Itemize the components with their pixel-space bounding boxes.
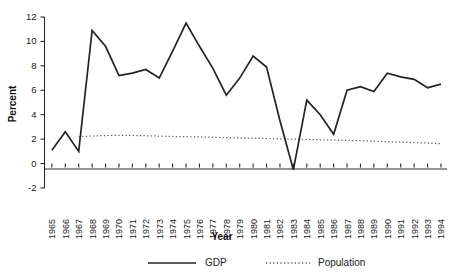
y-tick-label: 6 xyxy=(31,84,36,95)
y-tick-label: 4 xyxy=(31,109,36,120)
x-tick-label: 1983 xyxy=(289,219,299,239)
x-tick-label: 1976 xyxy=(195,219,205,239)
y-tick-label: 8 xyxy=(31,60,36,71)
x-tick-label: 1993 xyxy=(423,219,433,239)
legend-label-population: Population xyxy=(318,257,365,268)
x-tick-label: 1990 xyxy=(383,219,393,239)
y-tick-label: -2 xyxy=(28,182,36,193)
x-tick-label: 1986 xyxy=(329,219,339,239)
x-tick-label: 1989 xyxy=(369,219,379,239)
x-tick-marks xyxy=(52,164,441,168)
x-tick-labels: 1965196619671968196919701971197219731974… xyxy=(47,219,446,239)
x-tick-label: 1973 xyxy=(155,219,165,239)
chart-container: -2024681012 1965196619671968196919701971… xyxy=(0,0,455,279)
y-tick-label: 12 xyxy=(26,11,37,22)
x-tick-label: 1994 xyxy=(436,219,446,239)
x-tick-label: 1971 xyxy=(128,219,138,239)
x-tick-label: 1972 xyxy=(141,219,151,239)
series-line-population xyxy=(79,135,441,143)
x-tick-label: 1981 xyxy=(262,219,272,239)
legend-label-gdp: GDP xyxy=(205,257,227,268)
x-tick-label: 1991 xyxy=(396,219,406,239)
x-tick-label: 1975 xyxy=(182,219,192,239)
y-tick-marks xyxy=(41,17,45,188)
series-line-gdp xyxy=(52,23,441,170)
x-tick-label: 1974 xyxy=(168,219,178,239)
x-tick-label: 1984 xyxy=(302,219,312,239)
x-tick-label: 1969 xyxy=(101,219,111,239)
x-axis-title: Year xyxy=(211,231,232,242)
x-tick-label: 1967 xyxy=(74,219,84,239)
y-tick-label: 10 xyxy=(26,35,37,46)
y-axis-title: Percent xyxy=(7,85,18,122)
x-tick-label: 1965 xyxy=(47,219,57,239)
x-tick-label: 1979 xyxy=(235,219,245,239)
x-tick-label: 1985 xyxy=(316,219,326,239)
x-tick-label: 1987 xyxy=(343,219,353,239)
x-tick-label: 1966 xyxy=(61,219,71,239)
x-tick-label: 1988 xyxy=(356,219,366,239)
x-tick-label: 1980 xyxy=(249,219,259,239)
line-chart: -2024681012 1965196619671968196919701971… xyxy=(0,0,455,279)
x-tick-label: 1982 xyxy=(275,219,285,239)
x-tick-label: 1970 xyxy=(114,219,124,239)
x-tick-label: 1992 xyxy=(410,219,420,239)
y-tick-labels: -2024681012 xyxy=(26,11,37,193)
chart-legend: GDP Population xyxy=(148,257,365,268)
x-tick-label: 1968 xyxy=(88,219,98,239)
y-tick-label: 2 xyxy=(31,133,36,144)
y-tick-label: 0 xyxy=(31,158,36,169)
